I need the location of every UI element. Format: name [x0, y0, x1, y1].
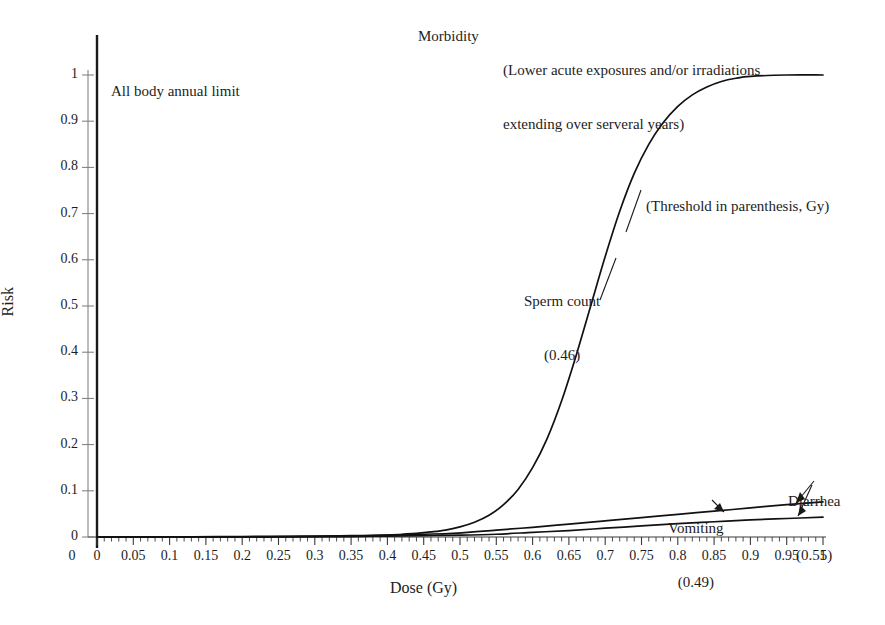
annotation-vomiting-threshold: (0.49): [668, 573, 724, 591]
annotation-subtitle: (Lower acute exposures and/or irradiatio…: [503, 24, 760, 170]
y-axis-label: Risk: [0, 287, 17, 316]
y-tick-label: 0.4: [24, 343, 78, 359]
y-tick-label: 0.2: [24, 436, 78, 452]
annotation-subtitle-line1: (Lower acute exposures and/or irradiatio…: [503, 61, 760, 79]
y-tick-label: 0.7: [24, 205, 78, 221]
x-tick-label: 1: [798, 548, 848, 564]
y-tick-label: 0.1: [24, 482, 78, 498]
y-tick-label: 0.8: [24, 158, 78, 174]
y-tick-label: 0.3: [24, 389, 78, 405]
x-axis-label: Dose (Gy): [390, 578, 457, 598]
annotation-vomiting-name: Vomiting: [668, 519, 724, 537]
y-tick-label: 0.5: [24, 297, 78, 313]
x-tick-label-origin: 0: [59, 548, 85, 564]
annotation-diarrhea-name: Diarrhea: [788, 492, 840, 510]
y-tick-label: 1: [24, 66, 78, 82]
annotation-threshold-note: (Threshold in parenthesis, Gy): [646, 197, 829, 215]
annotation-morbidity: Morbidity: [418, 27, 479, 45]
annotation-sperm-count-threshold: (0.46): [524, 346, 600, 364]
annotation-sperm-count: Sperm count (0.46): [524, 255, 600, 401]
y-tick-label: 0: [24, 528, 78, 544]
y-tick-label: 0.9: [24, 112, 78, 128]
annotation-diarrhea: Diarrhea (0.55): [788, 455, 840, 601]
threshold-note-leader: [626, 190, 641, 232]
annotation-subtitle-line2: extending over serveral years): [503, 115, 760, 133]
leader-lines-group: [600, 190, 814, 516]
y-tick-label: 0.6: [24, 251, 78, 267]
chart-container: Morbidity (Lower acute exposures and/or …: [0, 0, 885, 625]
annotation-all-body-annual-limit: All body annual limit: [111, 82, 240, 100]
annotation-sperm-count-name: Sperm count: [524, 292, 600, 310]
